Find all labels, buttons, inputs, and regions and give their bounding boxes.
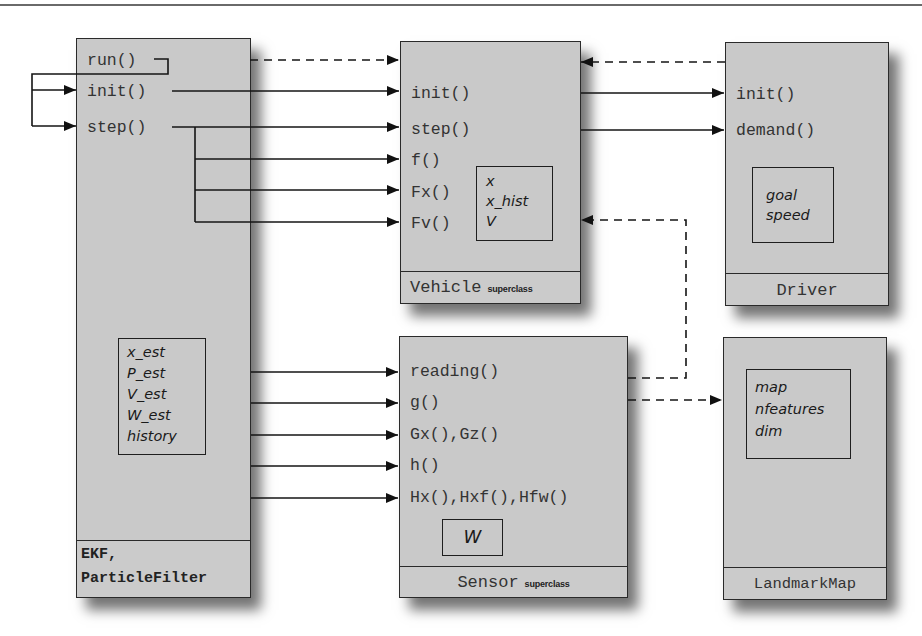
filter-footer: EKF, ParticleFilter <box>77 540 250 597</box>
property-x-est: x_est <box>127 341 205 361</box>
property-w-est: W_est <box>127 403 205 424</box>
method-fx: Fx() <box>411 185 451 202</box>
property-v-est: V_est <box>127 382 205 403</box>
method-f: f() <box>411 153 441 170</box>
property-history: history <box>127 424 205 445</box>
sensor-class-name: Sensor <box>457 573 518 592</box>
class-box-vehicle: init() step() f() Fx() Fv() x x_hist V V… <box>400 41 581 304</box>
method-reading: reading() <box>410 364 499 381</box>
vehicle-footer: Vehiclesuperclass <box>401 271 580 303</box>
method-g: g() <box>410 395 440 412</box>
method-init: init() <box>411 86 470 103</box>
property-map: map <box>755 376 850 398</box>
map-class-name: LandmarkMap <box>724 568 886 593</box>
class-box-landmark-map: map nfeatures dim LandmarkMap <box>723 337 887 600</box>
property-v: V <box>486 211 552 231</box>
class-box-filter: run() init() step() x_est P_est V_est W_… <box>76 38 251 598</box>
method-run: run() <box>87 53 137 70</box>
driver-properties-box: goal speed <box>752 167 834 243</box>
method-demand: demand() <box>736 123 815 140</box>
sensor-footer: Sensorsuperclass <box>400 566 627 597</box>
property-dim: dim <box>755 420 850 442</box>
filter-class-name-2: ParticleFilter <box>77 567 250 591</box>
filter-class-name-1: EKF, <box>77 541 250 567</box>
top-rule <box>0 4 922 6</box>
driver-class-name: Driver <box>726 274 888 300</box>
vehicle-properties-box: x x_hist V <box>476 166 553 241</box>
vehicle-class-name: Vehicle <box>410 278 481 297</box>
method-gx-gz: Gx(),Gz() <box>410 427 499 444</box>
class-box-sensor: reading() g() Gx(),Gz() h() Hx(),Hxf(),H… <box>399 336 628 598</box>
filter-to-sensor-connectors <box>251 372 398 498</box>
method-init: init() <box>736 87 795 104</box>
filter-properties-box: x_est P_est V_est W_est history <box>118 338 206 455</box>
sensor-properties-box: W <box>442 519 503 556</box>
map-footer: LandmarkMap <box>724 567 886 599</box>
map-properties-box: map nfeatures dim <box>746 369 851 459</box>
method-step: step() <box>87 120 146 137</box>
superclass-tag: superclass <box>525 579 570 589</box>
method-init: init() <box>87 84 146 101</box>
class-box-driver: init() demand() goal speed Driver <box>725 42 889 306</box>
method-h: h() <box>410 458 440 475</box>
property-w: W <box>443 520 502 553</box>
method-step: step() <box>411 122 470 139</box>
property-p-est: P_est <box>127 361 205 382</box>
property-nfeatures: nfeatures <box>755 398 850 420</box>
method-fv: Fv() <box>411 216 451 233</box>
superclass-tag: superclass <box>487 284 532 294</box>
property-speed: speed <box>766 205 833 225</box>
property-x: x <box>486 171 552 191</box>
property-x-hist: x_hist <box>486 191 552 211</box>
method-hx-hxf-hfw: Hx(),Hxf(),Hfw() <box>410 490 568 507</box>
property-goal: goal <box>766 185 833 205</box>
driver-footer: Driver <box>726 273 888 305</box>
